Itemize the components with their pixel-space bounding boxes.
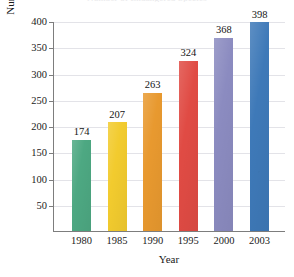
y-tick-mark (49, 180, 54, 181)
x-tick-label: 1995 (178, 236, 199, 247)
x-axis-line (53, 231, 285, 232)
bar-chart-figure: Number of Endangered Species 40035030025… (0, 0, 294, 277)
y-tick-label: 400 (31, 17, 47, 28)
bar-value-label: 174 (74, 127, 90, 138)
y-tick-label: 50 (37, 201, 48, 212)
y-tick-mark (49, 127, 54, 128)
y-tick-mark (49, 48, 54, 49)
bar[interactable]: 2631990 (143, 93, 162, 231)
x-tick-label: 2000 (213, 236, 234, 247)
bar-value-label: 207 (109, 110, 125, 121)
y-axis-title: Number of Endangered Species (3, 0, 17, 50)
y-tick-label: 350 (31, 43, 47, 54)
x-tick-label: 1990 (142, 236, 163, 247)
bar[interactable]: 1741980 (72, 140, 91, 231)
bar-value-label: 324 (180, 48, 196, 59)
y-tick-label: 250 (31, 96, 47, 107)
y-tick-mark (49, 22, 54, 23)
x-tick-label: 2003 (249, 236, 270, 247)
bar[interactable]: 3682000 (214, 38, 233, 231)
y-tick-label: 150 (31, 148, 47, 159)
y-tick-mark (49, 206, 54, 207)
bar[interactable]: 2071985 (108, 122, 127, 231)
x-axis-title: Year (53, 254, 285, 265)
y-tick-mark (49, 153, 54, 154)
y-tick-mark (49, 101, 54, 102)
bar[interactable]: 3241995 (179, 61, 198, 231)
bar-value-label: 368 (216, 25, 232, 36)
y-tick-label: 100 (31, 174, 47, 185)
plot-area: 40035030025020015010050 1741980207198526… (53, 22, 285, 232)
y-tick-mark (49, 75, 54, 76)
x-tick-label: 1985 (107, 236, 128, 247)
bar-value-label: 263 (145, 80, 161, 91)
bar[interactable]: 3982003 (250, 22, 269, 231)
bar-value-label: 398 (252, 10, 268, 21)
x-tick-label: 1980 (71, 236, 92, 247)
y-tick-label: 300 (31, 69, 47, 80)
y-tick-label: 200 (31, 122, 47, 133)
chart-title: Number of Endangered Species (0, 0, 294, 2)
